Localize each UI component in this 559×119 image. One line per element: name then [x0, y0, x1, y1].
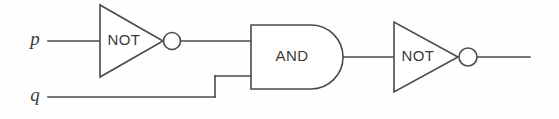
not-gate-bubble-2 — [459, 48, 477, 66]
circuit-svg: NOT AND NOT p q — [0, 0, 559, 119]
not-gate-label-2: NOT — [402, 47, 435, 64]
and-gate-label: AND — [276, 47, 309, 64]
logic-circuit-diagram: NOT AND NOT p q — [0, 0, 559, 119]
not-gate-label-1: NOT — [108, 31, 141, 48]
input-label-p: p — [28, 28, 40, 49]
gate-not-2: NOT — [394, 22, 477, 92]
input-label-q: q — [30, 84, 40, 105]
gate-not-1: NOT — [100, 5, 181, 77]
gate-and-1: AND — [251, 25, 343, 89]
input-label-group: p q — [28, 28, 40, 105]
not-gate-bubble-1 — [164, 33, 181, 50]
